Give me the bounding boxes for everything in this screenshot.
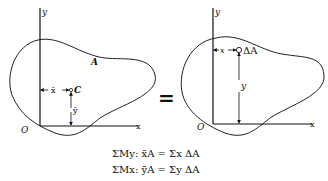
area-label: A <box>90 57 98 67</box>
right-figure: y x O ΔA x y <box>181 7 324 135</box>
origin-label-right: O <box>197 122 205 132</box>
centroid-point <box>69 88 72 91</box>
x-axis-label-right: x <box>310 120 315 129</box>
x-axis-label-left: x <box>136 122 141 131</box>
equals-sign: = <box>158 86 175 110</box>
element-point <box>236 47 241 52</box>
y-axis-label-right: y <box>214 7 221 17</box>
origin-label-left: O <box>21 125 29 135</box>
equation-moment-x: ΣMx: ȳA = Σy ΔA <box>112 164 199 175</box>
ybar-label: ȳ <box>72 106 78 115</box>
centroid-label: C <box>74 85 82 95</box>
element-label: ΔA <box>243 45 258 56</box>
area-outline-left <box>10 39 156 135</box>
equation-moment-y: ΣMy: x̄A = Σx ΔA <box>112 148 199 159</box>
y-dim-label: y <box>240 81 247 91</box>
left-figure: y x O A C x̄ ȳ <box>10 7 156 135</box>
xbar-label: x̄ <box>51 86 56 95</box>
x-dim-label: x <box>220 46 225 55</box>
y-axis-label-left: y <box>41 7 48 17</box>
